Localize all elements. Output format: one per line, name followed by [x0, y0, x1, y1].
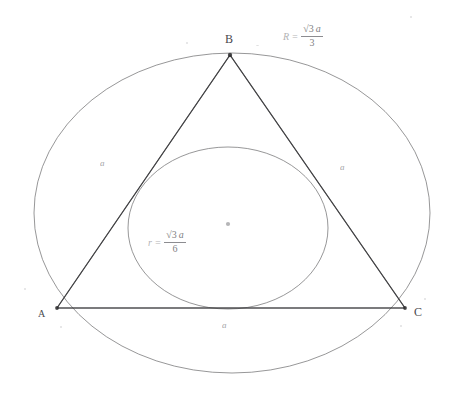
- circumradius-denominator: 3: [310, 37, 315, 49]
- scan-speck: [256, 45, 259, 46]
- circumradius-formula: R = √3 a 3: [283, 24, 323, 48]
- vertex-dot-a: [55, 306, 59, 310]
- inradius-numerator: √3 a: [164, 230, 186, 243]
- incircle: [128, 147, 328, 309]
- scan-speck: [60, 326, 62, 328]
- circumradius-radical: √3: [303, 24, 314, 35]
- circumcircle: [34, 53, 430, 373]
- scan-speck: [424, 298, 426, 300]
- inradius-denominator: 6: [172, 243, 177, 255]
- triangle-side-ab: [57, 55, 230, 308]
- vertex-label-b: B: [225, 32, 233, 47]
- side-label-bc: a: [340, 162, 345, 172]
- scan-speck: [186, 42, 188, 44]
- circumradius-numerator: √3 a: [301, 24, 323, 37]
- side-label-ab: a: [100, 158, 105, 168]
- inradius-formula: r = √3 a 6: [148, 230, 186, 254]
- inradius-variable: a: [179, 230, 184, 241]
- vertex-dot-b: [228, 53, 232, 57]
- scan-speck: [400, 325, 402, 327]
- triangle-side-bc: [230, 55, 405, 308]
- inradius-lead-label: r =: [148, 237, 161, 248]
- vertex-dot-c: [403, 306, 407, 310]
- scan-speck: [24, 288, 26, 290]
- circumradius-variable: a: [316, 24, 321, 35]
- vertex-label-c: C: [414, 305, 422, 320]
- vertex-label-a: A: [38, 308, 46, 319]
- inradius-radical: √3: [166, 230, 177, 241]
- scan-speck: [410, 16, 412, 18]
- geometry-canvas: [0, 0, 453, 417]
- circumradius-fraction: √3 a 3: [301, 24, 323, 48]
- inradius-fraction: √3 a 6: [164, 230, 186, 254]
- side-label-ca: a: [222, 320, 227, 330]
- circumradius-lead-label: R =: [283, 31, 298, 42]
- geometry-figure: B A C a a a R = √3 a 3 r = √3 a 6: [0, 0, 453, 417]
- center-point: [226, 222, 230, 226]
- triangle-abc: [57, 55, 405, 308]
